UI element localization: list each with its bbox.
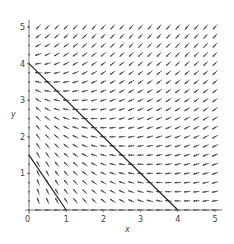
vector-field-plot: 01234512345 x y bbox=[0, 0, 234, 244]
y-tick-label: 2 bbox=[20, 133, 25, 142]
x-tick-label: 1 bbox=[64, 215, 69, 224]
y-tick-label: 5 bbox=[20, 23, 25, 32]
y-tick-label: 1 bbox=[20, 169, 25, 178]
x-tick-label: 3 bbox=[138, 215, 143, 224]
axes: 01234512345 bbox=[20, 20, 222, 224]
x-axis-label: x bbox=[124, 225, 130, 234]
y-tick-label: 3 bbox=[20, 96, 25, 105]
x-tick-label: 0 bbox=[25, 215, 30, 224]
x-tick-label: 4 bbox=[175, 215, 180, 224]
x-tick-label: 2 bbox=[101, 215, 106, 224]
direction-field-arrows bbox=[28, 25, 218, 212]
x-tick-label: 5 bbox=[213, 215, 218, 224]
y-tick-label: 4 bbox=[20, 60, 25, 69]
nullcline-lines bbox=[29, 64, 178, 210]
y-axis-label: y bbox=[10, 110, 16, 119]
